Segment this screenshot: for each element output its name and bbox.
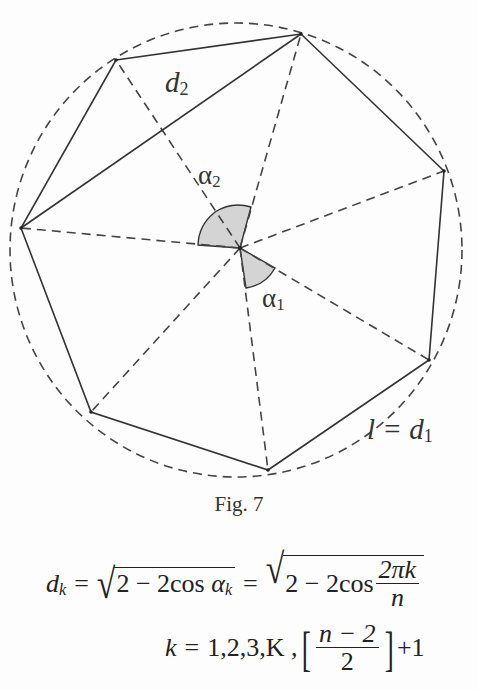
label-alpha2: α2 xyxy=(198,160,221,191)
diagonal-d2 xyxy=(21,34,301,228)
label-alpha1: α1 xyxy=(262,283,285,314)
equation-k-range: k= 1,2,3,K , [ n − 22 ] +1 xyxy=(165,620,425,677)
fraction-2pik-over-n: 2πkn xyxy=(376,556,420,613)
label-d2: d2 xyxy=(165,66,188,99)
circumscribed-circle xyxy=(10,23,462,477)
heptagon-edges xyxy=(21,34,444,470)
angle-alpha2-sector xyxy=(198,205,251,248)
sqrt-1: √ 2 − 2cos αk xyxy=(97,567,235,601)
fraction-n-minus-2-over-2: n − 22 xyxy=(316,620,379,677)
equation-dk: dk = √ 2 − 2cos αk = √ 2 − 2cos 2πkn xyxy=(46,555,424,613)
sqrt-2: √ 2 − 2cos 2πkn xyxy=(266,555,424,613)
figure-caption: Fig. 7 xyxy=(0,492,478,517)
vertex-points xyxy=(19,32,446,472)
radii xyxy=(21,34,444,470)
angle-alpha1-sector xyxy=(240,248,275,288)
label-l-equals-d1: l = d1 xyxy=(367,413,433,446)
